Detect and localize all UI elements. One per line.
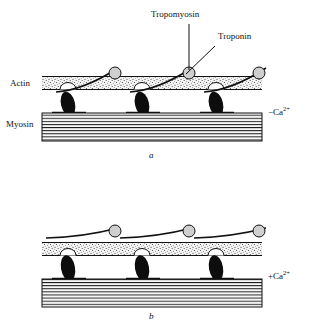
panel-a	[42, 67, 266, 141]
panel-letter-b: b	[149, 311, 154, 321]
crossbridges-b	[52, 254, 234, 282]
tropomyosin-strands-b	[46, 228, 266, 238]
label-actin: Actin	[10, 78, 30, 88]
muscle-filament-diagram	[0, 0, 311, 334]
ion-label-panel-b: +Ca2+	[268, 269, 290, 281]
label-myosin: Myosin	[6, 119, 34, 129]
myosin-filament-a	[42, 113, 262, 141]
ion-element-a: Ca	[273, 107, 283, 117]
label-troponin: Troponin	[218, 31, 251, 41]
ion-charge-b: 2+	[283, 269, 290, 276]
troponin-complexes-b	[109, 225, 265, 237]
troponin-leader-line-icon	[186, 46, 215, 74]
ion-charge-a: 2+	[283, 105, 290, 112]
myosin-filament-b	[42, 279, 262, 307]
ion-element-b: Ca	[273, 271, 283, 281]
panel-letter-a: a	[149, 150, 154, 160]
actin-filament-b	[42, 243, 262, 256]
ion-label-panel-a: −Ca2+	[268, 105, 290, 117]
label-tropomyosin: Tropomyosin	[151, 9, 199, 19]
panel-b	[42, 225, 266, 307]
